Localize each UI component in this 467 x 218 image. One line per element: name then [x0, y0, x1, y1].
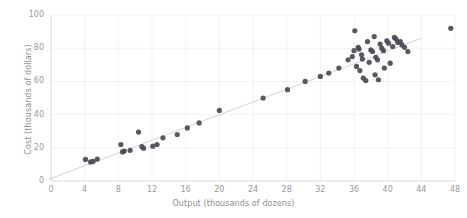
y-tick-label: 20: [20, 143, 44, 152]
x-tick-label: 24: [241, 185, 265, 194]
x-tick-label: 16: [174, 185, 198, 194]
x-tick-label: 36: [342, 185, 366, 194]
x-tick-label: 0: [39, 185, 63, 194]
y-tick-label: 40: [20, 110, 44, 119]
y-tick-label: 0: [20, 176, 44, 185]
x-tick-label: 32: [308, 185, 332, 194]
x-tick-label: 4: [73, 185, 97, 194]
x-tick-label: 40: [376, 185, 400, 194]
y-tick-label: 80: [20, 43, 44, 52]
data-points: [83, 26, 453, 165]
y-tick-label: 100: [20, 10, 44, 19]
scatter-chart: Output (thousands of dozens) Cost (thous…: [0, 0, 467, 218]
x-tick-label: 20: [207, 185, 231, 194]
x-axis-title: Output (thousands of dozens): [0, 199, 467, 208]
x-tick-label: 44: [409, 185, 433, 194]
x-tick-label: 12: [140, 185, 164, 194]
regression-line: [50, 38, 422, 180]
x-tick-label: 48: [443, 185, 467, 194]
y-tick-label: 60: [20, 76, 44, 85]
x-tick-label: 28: [275, 185, 299, 194]
y-axis-title: Cost (thousands of dollars): [24, 10, 33, 190]
x-tick-label: 8: [106, 185, 130, 194]
